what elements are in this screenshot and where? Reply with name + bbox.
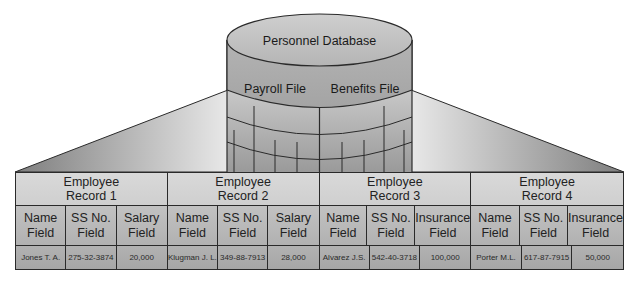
employee-record: EmployeeRecord 2 NameField SS No.Field S… — [168, 173, 320, 269]
record-title-line: Record 3 — [370, 189, 421, 203]
record-title-line: Employee — [215, 175, 271, 189]
field-labels-row: NameField SS No.Field SalaryField — [168, 206, 319, 246]
benefits-file-label: Benefits File — [331, 82, 400, 96]
employee-records-table: EmployeeRecord 1 NameField SS No.Field S… — [15, 172, 624, 270]
ss-value: 617-87-7915 — [522, 246, 573, 269]
salary-value: 20,000 — [117, 246, 167, 269]
insurance-value: 50,000 — [572, 246, 623, 269]
name-value: Alvarez J.S. — [320, 246, 370, 269]
employee-record: EmployeeRecord 3 NameField SS No.Field I… — [320, 173, 472, 269]
database-title: Personnel Database — [263, 34, 376, 48]
name-field-label: NameField — [16, 206, 66, 245]
funnel-right — [411, 90, 624, 172]
record-title-line: Employee — [64, 175, 120, 189]
ss-value: 275-32-3874 — [66, 246, 116, 269]
ss-field-label: SS No.Field — [367, 206, 415, 245]
name-value: Klugman J. L. — [168, 246, 218, 269]
record-title: EmployeeRecord 1 — [16, 173, 167, 206]
field-values-row: Alvarez J.S. 542-40-3718 100,000 — [320, 246, 471, 269]
field-values-row: Klugman J. L. 349-88-7913 28,000 — [168, 246, 319, 269]
name-field-label: NameField — [320, 206, 368, 245]
employee-record: EmployeeRecord 4 NameField SS No.Field I… — [471, 173, 623, 269]
field-labels-row: NameField SS No.Field InsuranceField — [471, 206, 623, 246]
funnel-left — [15, 90, 228, 172]
record-title: EmployeeRecord 4 — [471, 173, 623, 206]
name-field-label: NameField — [471, 206, 519, 245]
field-labels-row: NameField SS No.Field SalaryField — [16, 206, 167, 246]
record-title-line: Record 2 — [218, 189, 269, 203]
ss-field-label: SS No.Field — [218, 206, 268, 245]
name-value: Porter M.L. — [471, 246, 522, 269]
ss-value: 349-88-7913 — [218, 246, 268, 269]
salary-field-label: SalaryField — [268, 206, 318, 245]
record-title-line: Record 4 — [522, 189, 573, 203]
field-labels-row: NameField SS No.Field InsuranceField — [320, 206, 471, 246]
salary-value: 28,000 — [268, 246, 318, 269]
insurance-value: 100,000 — [420, 246, 470, 269]
field-values-row: Jones T. A. 275-32-3874 20,000 — [16, 246, 167, 269]
insurance-field-label: InsuranceField — [415, 206, 470, 245]
employee-record: EmployeeRecord 1 NameField SS No.Field S… — [16, 173, 168, 269]
record-title: EmployeeRecord 2 — [168, 173, 319, 206]
insurance-field-label: InsuranceField — [568, 206, 623, 245]
field-values-row: Porter M.L. 617-87-7915 50,000 — [471, 246, 623, 269]
record-title-line: Record 1 — [66, 189, 117, 203]
record-title-line: Employee — [367, 175, 423, 189]
record-title: EmployeeRecord 3 — [320, 173, 471, 206]
salary-field-label: SalaryField — [117, 206, 167, 245]
name-value: Jones T. A. — [16, 246, 66, 269]
ss-field-label: SS No.Field — [520, 206, 568, 245]
ss-field-label: SS No.Field — [66, 206, 116, 245]
payroll-file-label: Payroll File — [244, 82, 306, 96]
ss-value: 542-40-3718 — [370, 246, 420, 269]
name-field-label: NameField — [168, 206, 218, 245]
record-title-line: Employee — [519, 175, 575, 189]
